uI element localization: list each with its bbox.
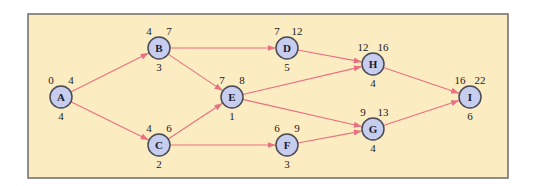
- node-label: H: [369, 58, 378, 70]
- duration-value: 6: [467, 110, 473, 122]
- early-start-value: 7: [219, 74, 225, 86]
- node-label: I: [468, 91, 472, 103]
- early-finish-value: 9: [294, 122, 300, 134]
- duration-value: 4: [58, 110, 64, 122]
- node-label: A: [57, 91, 65, 103]
- early-start-value: 4: [146, 25, 152, 37]
- early-start-value: 4: [146, 122, 152, 134]
- early-finish-value: 4: [68, 74, 74, 86]
- early-finish-value: 6: [166, 122, 172, 134]
- early-finish-value: 12: [292, 25, 303, 37]
- node-label: G: [369, 123, 378, 135]
- node-label: E: [228, 91, 235, 103]
- node-label: C: [155, 139, 163, 151]
- early-start-value: 9: [360, 106, 366, 118]
- early-finish-value: 8: [239, 74, 245, 86]
- early-start-value: 7: [274, 25, 280, 37]
- duration-value: 1: [229, 110, 235, 122]
- node-label: B: [155, 42, 163, 54]
- duration-value: 4: [370, 77, 376, 89]
- diagram-frame: [28, 14, 508, 178]
- early-finish-value: 22: [475, 74, 486, 86]
- early-start-value: 6: [274, 122, 280, 134]
- early-start-value: 0: [48, 74, 54, 86]
- duration-value: 5: [284, 61, 290, 73]
- duration-value: 2: [156, 158, 162, 170]
- early-start-value: 12: [358, 41, 369, 53]
- duration-value: 3: [284, 158, 290, 170]
- early-start-value: 16: [455, 74, 467, 86]
- duration-value: 4: [370, 142, 376, 154]
- early-finish-value: 13: [378, 106, 390, 118]
- early-finish-value: 7: [166, 25, 172, 37]
- project-network-diagram: A044B473C462D7125E781F693G9134H12164I162…: [0, 0, 533, 186]
- node-label: F: [284, 139, 291, 151]
- early-finish-value: 16: [378, 41, 390, 53]
- duration-value: 3: [156, 61, 162, 73]
- node-label: D: [283, 42, 291, 54]
